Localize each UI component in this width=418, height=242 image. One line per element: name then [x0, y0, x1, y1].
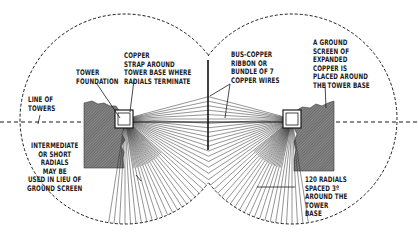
- label-line-of-towers: LINE OF TOWERS: [28, 96, 55, 113]
- label-tower-foundation: TOWER FOUNDATION: [76, 69, 119, 86]
- label-ground-screen: A GROUND SCREEN OF EXPANDED COPPER IS PL…: [313, 39, 370, 91]
- label-copper-strap: COPPER STRAP AROUND TOWER BASE WHERE RAD…: [124, 52, 191, 86]
- label-intermediate-radials: INTERMEDIATE OR SHORT RADIALS MAY BE USE…: [27, 142, 82, 194]
- ground-system-diagram: [0, 0, 418, 242]
- label-radials-spacing: 120 RADIALS SPACED 3º AROUND THE TOWER B…: [305, 176, 347, 219]
- left-tower-foundation: [115, 110, 133, 128]
- right-tower-foundation: [283, 110, 301, 128]
- label-bus-copper: BUS-COPPER RIBBON OR BUNDLE OF 7 COPPER …: [231, 51, 280, 85]
